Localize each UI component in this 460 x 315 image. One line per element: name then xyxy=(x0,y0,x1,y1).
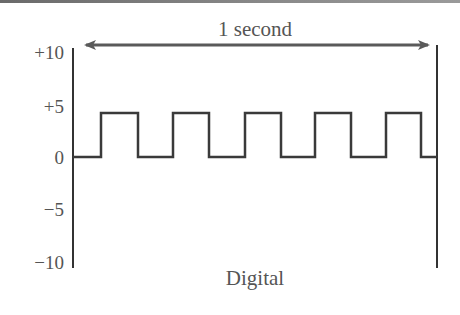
y-tick-plus-5: +5 xyxy=(44,96,64,117)
y-tick-zero: 0 xyxy=(55,147,65,168)
digital-signal-diagram: 1 second +10 +5 0 −5 −10 Digital xyxy=(0,0,460,315)
y-tick-plus-10: +10 xyxy=(34,42,64,63)
span-label: 1 second xyxy=(218,17,293,41)
y-tick-minus-5: −5 xyxy=(44,199,64,220)
y-tick-minus-10: −10 xyxy=(34,252,64,273)
digital-square-wave xyxy=(73,113,437,157)
caption-digital: Digital xyxy=(226,266,284,290)
